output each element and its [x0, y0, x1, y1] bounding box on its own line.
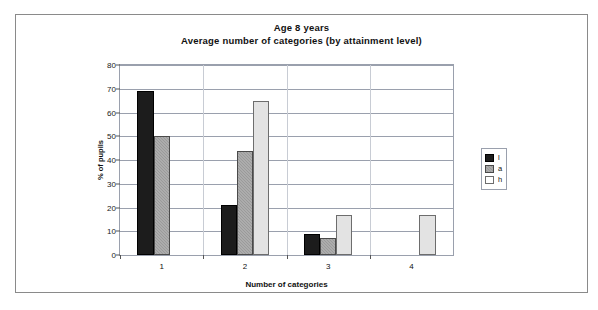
y-axis-tick-mark	[116, 136, 120, 137]
bar-l-3	[304, 234, 320, 255]
chart-title: Age 8 years	[16, 21, 587, 34]
bar-h-3	[336, 215, 352, 255]
bar-a-2	[237, 151, 253, 256]
chart-subtitle: Average number of categories (by attainm…	[16, 34, 587, 47]
legend-swatch-icon	[485, 176, 494, 184]
bar-l-2	[221, 205, 237, 255]
category-separator	[370, 65, 371, 255]
legend-label: h	[498, 176, 502, 184]
y-axis-tick-label: 20	[107, 203, 116, 212]
chart-legend: lah	[481, 148, 507, 190]
chart-title-block: Age 8 years Average number of categories…	[16, 21, 587, 47]
x-axis-tick-mark	[370, 255, 371, 259]
bar-l-1	[137, 91, 153, 255]
x-axis-label: Number of categories	[119, 280, 454, 289]
legend-swatch-icon	[485, 154, 494, 162]
legend-label: a	[498, 165, 502, 173]
x-axis-tick-label: 3	[326, 262, 330, 271]
y-axis-tick-mark	[116, 88, 120, 89]
bar-a-3	[320, 238, 336, 255]
y-axis-tick-label: 80	[107, 61, 116, 70]
y-axis-tick-label: 50	[107, 132, 116, 141]
legend-item-l: l	[485, 153, 502, 163]
bar-a-1	[154, 136, 170, 255]
y-axis-tick-label: 30	[107, 179, 116, 188]
bar-h-2	[253, 101, 269, 255]
y-axis-tick-mark	[116, 160, 120, 161]
chart-figure: Age 8 years Average number of categories…	[15, 14, 588, 293]
x-axis-tick-mark	[120, 255, 121, 259]
y-axis-tick-mark	[116, 112, 120, 113]
category-separator	[203, 65, 204, 255]
x-axis-tick-label: 2	[243, 262, 247, 271]
x-axis-tick-label: 4	[409, 262, 413, 271]
legend-swatch-icon	[485, 165, 494, 173]
legend-label: l	[498, 154, 500, 162]
y-axis-tick-label: 10	[107, 227, 116, 236]
category-separator	[287, 65, 288, 255]
y-axis-label: % of pupils	[96, 140, 105, 180]
y-axis-tick-label: 70	[107, 84, 116, 93]
legend-item-a: a	[485, 164, 502, 174]
y-axis-tick-mark	[116, 207, 120, 208]
y-axis-tick-label: 40	[107, 156, 116, 165]
legend-item-h: h	[485, 175, 502, 185]
y-axis-tick-mark	[116, 231, 120, 232]
y-axis-tick-mark	[116, 65, 120, 66]
bar-h-4	[419, 215, 435, 255]
plot-area: 010203040506070801234	[119, 64, 454, 256]
x-axis-tick-mark	[203, 255, 204, 259]
x-axis-tick-label: 1	[159, 262, 163, 271]
y-axis-tick-mark	[116, 183, 120, 184]
y-axis-tick-label: 60	[107, 108, 116, 117]
x-axis-tick-mark	[287, 255, 288, 259]
